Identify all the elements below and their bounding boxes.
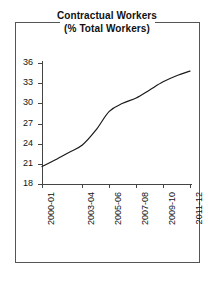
y-tick-mark: [38, 144, 42, 145]
x-tick-mark: [136, 184, 137, 188]
series-path-contractual-workers: [42, 71, 190, 166]
x-tick-mark: [42, 184, 43, 188]
y-tick-mark: [38, 103, 42, 104]
x-axis-line: [42, 184, 192, 185]
chart-title-line-2: (% Total Workers): [0, 22, 214, 35]
x-tick-label: 2007-08: [140, 192, 150, 225]
y-tick-label: 18: [0, 178, 33, 188]
y-tick-label: 27: [0, 118, 33, 128]
x-tick-mark: [82, 184, 83, 188]
x-tick-label: 2005-06: [113, 192, 123, 225]
line-series: [42, 63, 190, 184]
x-tick-mark: [109, 184, 110, 188]
x-tick-label: 2009-10: [167, 192, 177, 225]
y-tick-mark: [38, 124, 42, 125]
y-tick-label: 21: [0, 158, 33, 168]
figure-border-right: [199, 22, 200, 262]
x-tick-label: 2011-12: [194, 192, 204, 224]
y-tick-mark: [38, 63, 42, 64]
y-tick-mark: [38, 164, 42, 165]
x-tick-mark: [190, 184, 191, 188]
plot-area: [42, 63, 190, 184]
chart-title: Contractual Workers (% Total Workers): [0, 9, 214, 35]
x-tick-label: 2000-01: [46, 192, 56, 225]
figure-border-bottom: [15, 262, 200, 263]
x-tick-mark: [163, 184, 164, 188]
y-tick-label: 36: [0, 57, 33, 67]
x-tick-label: 2003-04: [86, 192, 96, 225]
chart-figure: Contractual Workers (% Total Workers) 36…: [0, 0, 214, 285]
chart-title-line-1: Contractual Workers: [0, 9, 214, 22]
y-tick-label: 24: [0, 138, 33, 148]
y-tick-label: 30: [0, 97, 33, 107]
y-tick-label: 33: [0, 77, 33, 87]
y-tick-mark: [38, 83, 42, 84]
